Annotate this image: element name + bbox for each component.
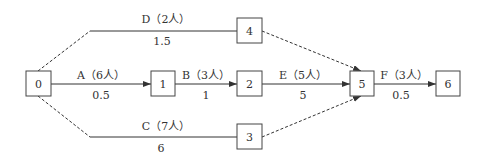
node-6: 6 [436, 71, 460, 96]
dummy-3-5 [262, 96, 361, 137]
label-e: E（5人） [279, 69, 327, 82]
network-diagram: 0 1 2 3 4 5 6 A（6人） 0.5 B（3人） 1 E（5人） 5 … [0, 0, 481, 163]
node-2: 2 [237, 71, 262, 96]
label-f: F（3人） [380, 69, 428, 82]
duration-d: 1.5 [153, 35, 171, 48]
svg-text:0: 0 [35, 78, 42, 91]
dummy-4-5 [262, 31, 361, 71]
svg-text:5: 5 [359, 78, 366, 91]
svg-text:1: 1 [160, 78, 167, 91]
duration-e: 5 [300, 89, 307, 102]
svg-text:3: 3 [246, 131, 253, 144]
arrow-c-dashed [38, 96, 90, 137]
node-4: 4 [237, 18, 262, 43]
svg-text:2: 2 [246, 78, 253, 91]
node-0: 0 [26, 71, 51, 96]
label-a: A（6人） [76, 69, 125, 82]
duration-b: 1 [203, 89, 210, 102]
duration-f: 0.5 [392, 89, 410, 102]
label-b: B（3人） [182, 69, 230, 82]
duration-c: 6 [158, 142, 165, 155]
node-3: 3 [237, 124, 262, 149]
node-1: 1 [151, 71, 175, 96]
svg-text:6: 6 [445, 78, 452, 91]
arrow-d-dashed [38, 31, 90, 71]
duration-a: 0.5 [92, 89, 110, 102]
label-c: C（7人） [142, 120, 190, 133]
label-d: D（2人） [142, 13, 191, 26]
node-5: 5 [350, 71, 374, 96]
svg-text:4: 4 [246, 25, 253, 38]
